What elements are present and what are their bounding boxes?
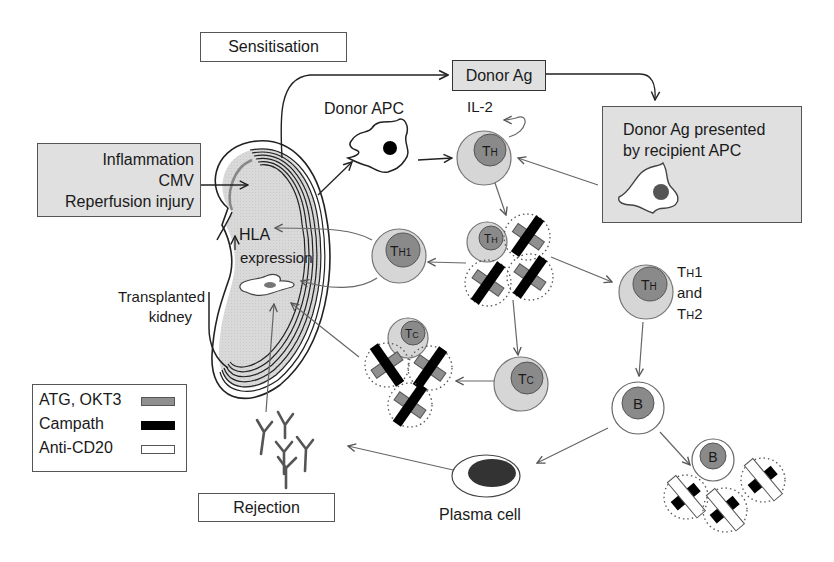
donor-apc-label: Donor APC — [324, 100, 404, 117]
arrow-donor-ag-to-recipient-apc — [546, 74, 655, 100]
and-label: and — [677, 284, 702, 301]
il2-label: IL-2 — [467, 98, 493, 115]
th1-cell: TH1 — [372, 229, 426, 283]
svg-text:B: B — [633, 395, 643, 412]
transplanted-label-line1: Transplanted — [118, 288, 205, 305]
expression-label: expression — [240, 249, 313, 266]
tc-cell: TC — [494, 357, 548, 411]
transplanted-label-line2: kidney — [149, 308, 193, 325]
arrow-recipient-apc-to-th — [518, 158, 598, 185]
legend-label-atg-okt3: ATG, OKT3 — [39, 391, 121, 409]
anti-cd20-bound-cell — [664, 475, 708, 519]
atg-campath-bound-cell — [504, 214, 550, 260]
th-cell-antibody-cluster: TH — [465, 214, 553, 306]
arrow-cluster-to-th1 — [428, 262, 466, 263]
atg-campath-bound-cell — [408, 346, 452, 390]
svg-text:TC: TC — [405, 327, 419, 341]
sensitisation-box: Sensitisation — [200, 32, 347, 62]
arrow-kidney-to-donor-apc — [318, 162, 352, 195]
arrow-donor-apc-to-th — [418, 158, 452, 160]
reperfusion-injury-label: Reperfusion injury — [65, 191, 194, 212]
atg-campath-bound-cell — [465, 260, 511, 306]
insults-box: Inflammation CMV Reperfusion injury — [37, 143, 201, 217]
cmv-label: CMV — [158, 170, 194, 191]
th2-label: TH2 — [677, 305, 702, 322]
legend: ATG, OKT3 Campath Anti-CD20 — [32, 384, 187, 472]
rejection-box: Rejection — [198, 493, 335, 522]
sensitisation-label: Sensitisation — [228, 38, 319, 56]
diagram-canvas: HLA expression Transplanted kidney Donor — [0, 0, 834, 562]
legend-swatch-campath — [141, 421, 175, 430]
th-cell-right: TH — [619, 265, 673, 319]
donor-ag-box: Donor Ag — [452, 60, 546, 91]
legend-swatch-anti-cd20 — [141, 445, 175, 454]
atg-campath-bound-cell — [507, 254, 553, 300]
plasma-cell-label: Plasma cell — [439, 506, 521, 523]
donor-apc-icon — [348, 119, 408, 172]
anti-cd20-bound-cell — [703, 488, 747, 532]
b-cell-anti-cd20-cluster: B — [664, 439, 785, 532]
arrow-plasma-to-antibodies — [348, 446, 453, 470]
atg-campath-bound-cell — [388, 383, 432, 427]
th-cell-top: TH — [457, 131, 511, 185]
rejection-label: Rejection — [233, 499, 300, 517]
recipient-apc-icon — [611, 159, 681, 217]
donor-ag-presented-line1: Donor Ag presented — [623, 119, 801, 140]
antibodies-icon — [257, 412, 313, 488]
legend-label-campath: Campath — [39, 415, 104, 433]
svg-text:B: B — [708, 449, 717, 465]
arrow-cluster-to-tc — [513, 300, 518, 355]
inflammation-label: Inflammation — [102, 149, 194, 170]
legend-swatch-atg-okt3 — [141, 397, 175, 406]
arrow-th-to-cluster — [494, 180, 506, 215]
tc-cell-antibody-cluster: TC — [365, 318, 452, 427]
donor-ag-presented-line2: by recipient APC — [623, 140, 801, 161]
donor-ag-label: Donor Ag — [466, 67, 533, 85]
il2-autocrine-arrow — [504, 117, 525, 137]
hla-label: HLA — [239, 226, 270, 243]
svg-text:TH: TH — [484, 232, 498, 246]
plasma-cell-icon — [452, 455, 520, 497]
th1-label: TH1 — [677, 263, 702, 280]
recipient-apc-box: Donor Ag presented by recipient APC — [602, 106, 802, 223]
legend-label-anti-cd20: Anti-CD20 — [39, 439, 113, 457]
arrow-cluster-to-th-right — [551, 257, 612, 282]
anti-cd20-bound-cell — [741, 458, 785, 502]
arrow-b-to-b-cluster — [660, 432, 690, 465]
b-cell: B — [612, 382, 664, 434]
arrow-b-to-plasma — [537, 428, 608, 463]
arrow-th-to-b — [639, 322, 643, 376]
renal-cell-nucleus — [264, 282, 276, 288]
